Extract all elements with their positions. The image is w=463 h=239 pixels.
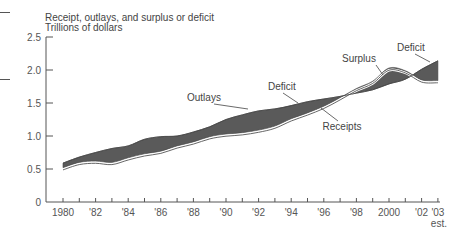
x-tick-label: '92 — [252, 207, 265, 218]
annotation-label-receipts: Receipts — [323, 121, 362, 132]
x-tick-label: '86 — [154, 207, 167, 218]
x-tick-label: 1980 — [52, 207, 75, 218]
y-tick-label: 0 — [35, 197, 41, 208]
plot-area — [63, 61, 438, 170]
x-tick-label: 2000 — [378, 207, 401, 218]
x-tick-label: '03 — [431, 207, 444, 218]
x-tick-label: '84 — [122, 207, 135, 218]
x-tick-label: '82 — [89, 207, 102, 218]
annotations: OutlaysDeficitReceiptsSurplusDeficit — [187, 42, 430, 132]
annotation-label-deficit: Deficit — [268, 81, 296, 92]
annotation-leader — [321, 108, 338, 121]
x-tick-label: '90 — [219, 207, 232, 218]
annotation-leader — [415, 54, 430, 62]
x-tick-label: '02 — [415, 207, 428, 218]
y-tick-label: 1.5 — [27, 98, 41, 109]
annotation-leader — [214, 104, 248, 109]
annotation-leader — [376, 65, 383, 75]
x-tick-label: '96 — [317, 207, 330, 218]
chart-subtitle: Trillions of dollars — [45, 22, 122, 33]
x-tick-label: '98 — [350, 207, 363, 218]
x-tick-label: '88 — [187, 207, 200, 218]
budget-chart: Receipt, outlays, and surplus or deficit… — [0, 0, 463, 239]
annotation-label-surplus: Surplus — [342, 53, 376, 64]
annotation-leader — [283, 93, 298, 103]
x-tick-label: '94 — [285, 207, 298, 218]
y-tick-label: 1.0 — [27, 131, 41, 142]
x-tick-sublabel: est. — [431, 218, 447, 229]
y-tick-label: 2.0 — [27, 65, 41, 76]
y-tick-label: 2.5 — [27, 32, 41, 43]
annotation-label-deficit: Deficit — [397, 42, 425, 53]
y-tick-label: 0.5 — [27, 164, 41, 175]
annotation-label-outlays: Outlays — [187, 92, 221, 103]
